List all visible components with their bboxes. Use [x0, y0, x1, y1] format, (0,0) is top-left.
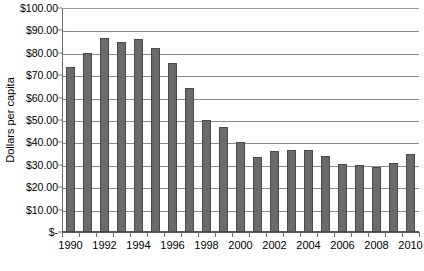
bar	[355, 165, 364, 232]
x-axis-tick-mark	[249, 232, 250, 237]
x-axis-tick-label: 2010	[398, 239, 422, 251]
y-axis-tick-label: $60.00	[26, 92, 58, 104]
y-axis-tick-label: $-	[49, 226, 58, 238]
y-axis-tick-labels: $100.00$90.00$80.00$70.00$60.00$50.00$40…	[16, 8, 62, 232]
x-axis-tick-mark	[198, 232, 199, 237]
x-axis-tick-mark	[402, 232, 403, 237]
x-axis-tick-labels: 1990199219941996199820002002200420062008…	[62, 239, 419, 259]
bar	[372, 167, 381, 232]
y-axis-tick-label: $20.00	[26, 181, 58, 193]
bar	[151, 48, 160, 232]
bar	[287, 150, 296, 232]
x-axis-tick-mark	[351, 232, 352, 237]
x-axis-tick-mark	[266, 232, 267, 237]
x-axis-tick-mark	[96, 232, 97, 237]
x-axis-tick-label: 1990	[58, 239, 82, 251]
x-axis-tick-label: 1998	[194, 239, 218, 251]
bar	[219, 127, 228, 232]
x-axis-tick-mark	[79, 232, 80, 237]
bar	[389, 163, 398, 232]
bar	[202, 120, 211, 232]
bar	[406, 154, 415, 232]
y-axis-tick-label: $100.00	[20, 2, 58, 14]
y-axis-tick-label: $50.00	[26, 114, 58, 126]
x-axis-tick-label: 1996	[160, 239, 184, 251]
bar	[83, 53, 92, 232]
bar	[66, 67, 75, 232]
bar	[185, 88, 194, 232]
x-axis-tick-mark	[215, 232, 216, 237]
x-axis-tick-mark	[385, 232, 386, 237]
x-axis-tick-mark	[300, 232, 301, 237]
x-axis-tick-mark	[130, 232, 131, 237]
bar	[236, 142, 245, 232]
x-axis-tick-mark	[62, 232, 63, 237]
y-axis-tick-label: $40.00	[26, 136, 58, 148]
x-axis-tick-mark	[317, 232, 318, 237]
x-axis-tick-mark	[181, 232, 182, 237]
bar	[168, 63, 177, 232]
bar	[100, 38, 109, 232]
x-axis-tick-mark	[419, 232, 420, 237]
y-axis-tick-label: $80.00	[26, 47, 58, 59]
x-axis-tick-label: 1994	[126, 239, 150, 251]
y-axis-tick-label: $10.00	[26, 204, 58, 216]
bar	[304, 150, 313, 232]
x-axis-tick-mark	[147, 232, 148, 237]
y-axis-tick-label: $70.00	[26, 69, 58, 81]
x-axis-tick-label: 2006	[330, 239, 354, 251]
x-axis-tick-mark	[232, 232, 233, 237]
x-axis-tick-mark	[283, 232, 284, 237]
y-axis-tick-label: $30.00	[26, 159, 58, 171]
x-axis-tick-label: 2004	[296, 239, 320, 251]
x-axis-tick-mark	[368, 232, 369, 237]
bars-layer	[62, 8, 419, 232]
y-axis-title-text: Dollars per capita	[4, 77, 16, 163]
x-axis-tick-label: 2002	[262, 239, 286, 251]
bar	[321, 156, 330, 232]
bar	[338, 164, 347, 232]
x-axis-tick-mark	[334, 232, 335, 237]
x-axis-tick-marks	[62, 232, 419, 238]
x-axis-tick-mark	[164, 232, 165, 237]
bar	[117, 42, 126, 232]
bar	[270, 151, 279, 232]
x-axis-tick-label: 2000	[228, 239, 252, 251]
x-axis-tick-mark	[113, 232, 114, 237]
x-axis-tick-label: 2008	[364, 239, 388, 251]
bar	[253, 157, 262, 232]
bar	[134, 39, 143, 232]
x-axis-tick-label: 1992	[92, 239, 116, 251]
bar-chart: Dollars per capita $100.00$90.00$80.00$7…	[0, 0, 424, 271]
y-axis-tick-label: $90.00	[26, 24, 58, 36]
